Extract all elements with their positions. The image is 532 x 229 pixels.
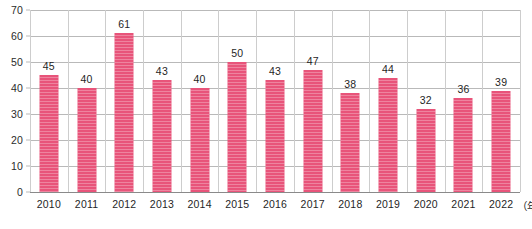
bar[interactable] xyxy=(341,93,360,192)
x-axis-label-2015: 2015 xyxy=(225,198,249,210)
bar[interactable] xyxy=(379,78,398,192)
bar-group-2020: 32 xyxy=(407,10,445,192)
gridline-y-0 xyxy=(30,192,520,193)
bar[interactable] xyxy=(152,80,171,192)
bar-group-2012: 61 xyxy=(105,10,143,192)
bar-group-2017: 47 xyxy=(294,10,332,192)
bar-value-label: 38 xyxy=(344,78,356,90)
y-axis: 010203040506070 xyxy=(0,0,30,229)
x-axis-label-2011: 2011 xyxy=(75,198,98,210)
bar[interactable] xyxy=(416,109,435,192)
x-axis-label-2012: 2012 xyxy=(112,198,136,210)
bar-value-label: 61 xyxy=(118,18,130,30)
bar-group-2014: 40 xyxy=(181,10,219,192)
bar-value-label: 40 xyxy=(80,73,92,85)
bar-group-2015: 50 xyxy=(218,10,256,192)
y-axis-label-70: 70 xyxy=(11,4,23,16)
bar-value-label: 39 xyxy=(495,76,507,88)
y-axis-label-50: 50 xyxy=(11,56,23,68)
bar-value-label: 45 xyxy=(43,60,55,72)
y-axis-label-10: 10 xyxy=(11,160,23,172)
bar-group-2011: 40 xyxy=(68,10,106,192)
bar-group-2019: 44 xyxy=(369,10,407,192)
x-axis-label-2019: 2019 xyxy=(376,198,400,210)
plot-area: 45406143405043473844323639 xyxy=(30,10,520,192)
bar-value-label: 43 xyxy=(156,65,168,77)
bar-value-label: 44 xyxy=(382,63,394,75)
x-axis-label-2014: 2014 xyxy=(188,198,212,210)
y-axis-label-0: 0 xyxy=(17,186,23,198)
x-axis-label-2020: 2020 xyxy=(414,198,438,210)
bar-value-label: 32 xyxy=(420,94,432,106)
bar[interactable] xyxy=(190,88,209,192)
x-axis-unit-label: （年） xyxy=(517,198,532,213)
bar-value-label: 43 xyxy=(269,65,281,77)
bar-group-2021: 36 xyxy=(445,10,483,192)
x-axis-label-2018: 2018 xyxy=(338,198,362,210)
bar-group-2013: 43 xyxy=(143,10,181,192)
y-axis-label-40: 40 xyxy=(11,82,23,94)
x-axis-label-2017: 2017 xyxy=(301,198,325,210)
x-axis-label-2021: 2021 xyxy=(451,198,475,210)
bar-value-label: 50 xyxy=(231,47,243,59)
x-axis-label-2022: 2022 xyxy=(489,198,513,210)
bar-value-label: 47 xyxy=(307,55,319,67)
bar-group-2018: 38 xyxy=(332,10,370,192)
bar-group-2016: 43 xyxy=(256,10,294,192)
x-axis-label-2010: 2010 xyxy=(37,198,61,210)
y-axis-label-30: 30 xyxy=(11,108,23,120)
bar[interactable] xyxy=(492,91,511,192)
bar[interactable] xyxy=(303,70,322,192)
y-axis-label-20: 20 xyxy=(11,134,23,146)
bar[interactable] xyxy=(39,75,58,192)
bar[interactable] xyxy=(228,62,247,192)
bar[interactable] xyxy=(77,88,96,192)
bar-group-2010: 45 xyxy=(30,10,68,192)
bar[interactable] xyxy=(115,33,134,192)
y-axis-label-60: 60 xyxy=(11,30,23,42)
x-axis: 2010201120122013201420152016201720182019… xyxy=(30,194,520,216)
bar[interactable] xyxy=(265,80,284,192)
bar-value-label: 36 xyxy=(457,83,469,95)
bar-chart: 010203040506070 454061434050434738443236… xyxy=(0,0,532,229)
x-axis-label-2016: 2016 xyxy=(263,198,287,210)
bar-value-label: 40 xyxy=(194,73,206,85)
x-axis-label-2013: 2013 xyxy=(150,198,174,210)
bar-group-2022: 39 xyxy=(482,10,520,192)
category-separator xyxy=(520,10,521,192)
bar[interactable] xyxy=(454,98,473,192)
